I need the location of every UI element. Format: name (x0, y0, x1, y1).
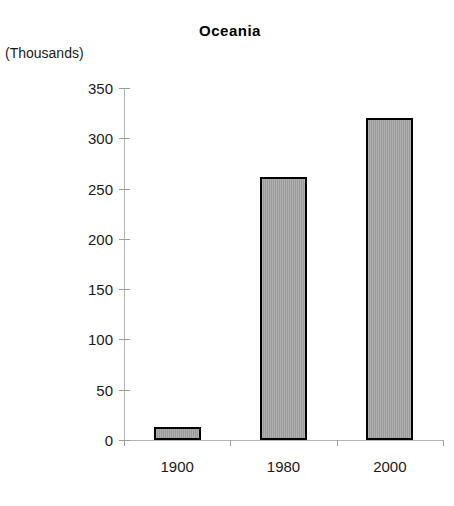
y-axis-tick-label: 350 (88, 80, 113, 97)
y-axis-tick-mark (119, 239, 130, 240)
y-axis-tick-label: 200 (88, 230, 113, 247)
x-axis-tick-label: 1900 (124, 458, 230, 475)
x-axis-tick-label: 1980 (230, 458, 336, 475)
y-axis-tick-label: 150 (88, 281, 113, 298)
x-axis-line (124, 440, 444, 441)
y-axis-tick-mark (119, 289, 130, 290)
y-axis-unit-label: (Thousands) (5, 45, 84, 61)
bar-chart: Oceania (Thousands) 05010015020025030035… (0, 0, 454, 506)
chart-title: Oceania (150, 22, 310, 39)
y-axis-tick-mark (119, 390, 130, 391)
y-axis-tick-mark (119, 88, 130, 89)
y-axis-tick-label: 300 (88, 130, 113, 147)
x-axis-tick-mark (230, 440, 231, 446)
bar (154, 427, 201, 440)
y-axis-tick-mark (119, 339, 130, 340)
plot-area: 050100150200250300350 (124, 88, 443, 440)
x-axis-tick-mark (337, 440, 338, 446)
y-axis-tick-label: 100 (88, 331, 113, 348)
y-axis-tick-label: 0 (105, 432, 113, 449)
y-axis-tick-label: 250 (88, 180, 113, 197)
x-axis-tick-mark (124, 440, 125, 446)
bar (260, 177, 307, 440)
y-axis-tick-mark (119, 189, 130, 190)
bar (366, 118, 413, 440)
x-axis-tick-mark (443, 440, 444, 446)
x-axis-tick-label: 2000 (337, 458, 443, 475)
y-axis-tick-mark (119, 138, 130, 139)
y-axis-tick-label: 50 (96, 381, 113, 398)
